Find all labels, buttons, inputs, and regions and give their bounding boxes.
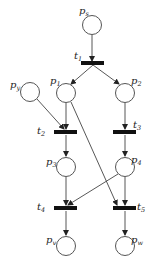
petri-net-diagram: ps t1 p1 p2 py t2 t3 p3 p4 t4 t5 pv pw xyxy=(0,0,155,269)
place-ps xyxy=(83,16,102,35)
place-pv xyxy=(57,237,76,256)
place-py xyxy=(21,83,40,102)
label-p1: p1 xyxy=(50,75,61,88)
transition-t4 xyxy=(54,206,77,210)
label-p2: p2 xyxy=(131,75,142,88)
label-t5: t5 xyxy=(137,201,145,214)
arc-t1-p1 xyxy=(71,65,93,84)
transition-t1 xyxy=(81,61,104,65)
label-pv: pv xyxy=(46,234,56,247)
label-t2: t2 xyxy=(37,125,45,138)
label-ps: ps xyxy=(79,5,89,18)
arc-py-t2 xyxy=(37,99,64,129)
label-p3: p3 xyxy=(46,156,57,169)
arc-t1-p2 xyxy=(93,65,119,84)
transition-t5 xyxy=(113,206,136,210)
place-p2 xyxy=(116,84,135,103)
label-py: py xyxy=(10,79,20,92)
label-t4: t4 xyxy=(37,201,45,214)
transition-t2 xyxy=(54,130,77,134)
label-t1: t1 xyxy=(74,50,82,63)
place-p3 xyxy=(57,158,76,177)
transition-t3 xyxy=(113,130,136,134)
arc-p1-t5 xyxy=(71,102,117,205)
